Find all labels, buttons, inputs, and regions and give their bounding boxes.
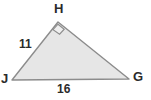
vertex-label-j: J [1, 72, 8, 85]
side-length-label-jh: 11 [19, 38, 32, 50]
vertex-label-h: H [54, 2, 63, 15]
geometry-figure: H J G 11 16 [0, 0, 151, 100]
vertex-label-g: G [133, 70, 143, 83]
triangle-shape [12, 22, 129, 80]
side-length-label-jg: 16 [57, 83, 70, 95]
